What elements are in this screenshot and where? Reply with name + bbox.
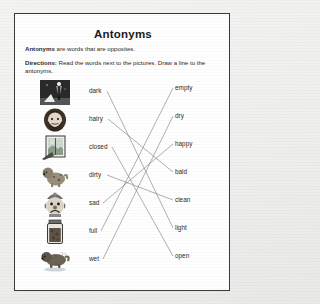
- wet-dog-picture: [33, 246, 77, 273]
- left-word-column: dark hairy closed dirty sad full wet: [89, 79, 141, 284]
- directions-label: Directions:: [25, 59, 57, 66]
- right-word-column: empty dry happy bald clean light open: [175, 79, 227, 284]
- right-word-dry[interactable]: dry: [175, 113, 184, 119]
- right-word-bald[interactable]: bald: [175, 169, 187, 175]
- left-word-closed[interactable]: closed: [89, 144, 107, 150]
- picture-column: [33, 79, 77, 284]
- worksheet-content: Antonyms Antonyms are words that are opp…: [15, 14, 229, 290]
- left-word-sad[interactable]: sad: [89, 200, 99, 206]
- closed-window-picture: [33, 134, 77, 161]
- left-word-hairy[interactable]: hairy: [89, 116, 103, 122]
- full-jar-picture: [33, 218, 77, 245]
- dirty-dog-picture: [33, 162, 77, 189]
- right-word-empty[interactable]: empty: [175, 85, 192, 91]
- sad-clown-picture: [33, 190, 77, 217]
- worksheet-sheet: Antonyms Antonyms are words that are opp…: [14, 13, 230, 291]
- definition-term: Antonyms: [25, 45, 55, 52]
- right-word-open[interactable]: open: [175, 253, 189, 259]
- right-word-happy[interactable]: happy: [175, 141, 192, 147]
- bearded-man-picture: [33, 106, 77, 133]
- right-word-clean[interactable]: clean: [175, 197, 190, 203]
- definition-rest: are words that are opposites.: [55, 45, 135, 52]
- left-word-dirty[interactable]: dirty: [89, 172, 101, 178]
- left-word-full[interactable]: full: [89, 228, 97, 234]
- left-word-wet[interactable]: wet: [89, 256, 99, 262]
- left-word-dark[interactable]: dark: [89, 88, 101, 94]
- directions-text: Directions: Read the words next to the p…: [25, 59, 223, 75]
- definition-text: Antonyms are words that are opposites.: [25, 45, 223, 53]
- matching-exercise: dark hairy closed dirty sad full wet emp…: [15, 79, 230, 284]
- page-title: Antonyms: [15, 28, 230, 40]
- right-word-light[interactable]: light: [175, 225, 187, 231]
- night-street-lamp-picture: [33, 79, 77, 106]
